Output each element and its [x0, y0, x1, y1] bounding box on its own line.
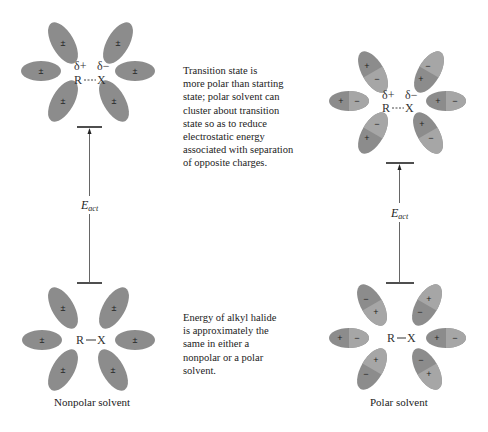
svg-text:−: −: [425, 61, 430, 71]
svg-text:±: ±: [133, 335, 138, 345]
x-label: X: [97, 333, 106, 347]
svg-text:±: ±: [111, 365, 116, 375]
svg-text:±: ±: [40, 335, 45, 345]
note-line: electrostatic energy: [183, 130, 333, 143]
svg-text:+: +: [426, 294, 431, 304]
svg-text:−: −: [354, 333, 359, 343]
svg-text:−: −: [417, 307, 422, 317]
x-label: X: [405, 101, 414, 115]
svg-text:−: −: [354, 96, 359, 106]
e-act-label: Eact: [80, 198, 99, 213]
note-line: is approximately the: [183, 324, 333, 337]
r-label: R: [76, 333, 84, 347]
polar-energy-gap: Eact: [386, 163, 414, 283]
r-label: R: [387, 331, 395, 345]
svg-text:+: +: [338, 96, 343, 106]
note-line: of opposite charges.: [183, 156, 333, 169]
note-line: state so as to reduce: [183, 117, 333, 130]
note-line: Transition state is: [183, 64, 333, 77]
svg-text:−: −: [418, 355, 423, 365]
e-act-label: Eact: [390, 206, 409, 221]
delta-minus-label: δ−: [405, 88, 418, 102]
delta-plus-label: δ+: [382, 88, 395, 102]
svg-text:±: ±: [61, 38, 66, 48]
svg-text:±: ±: [61, 96, 66, 106]
svg-text:±: ±: [61, 303, 66, 313]
svg-text:±: ±: [116, 38, 121, 48]
transition-state-note: Transition state is more polar than star…: [183, 64, 333, 170]
svg-text:+: +: [364, 133, 369, 143]
svg-text:−: −: [363, 294, 368, 304]
arrow-head-icon: [398, 164, 402, 170]
x-label: X: [407, 331, 416, 345]
svg-text:+: +: [426, 369, 431, 379]
svg-text:−: −: [363, 369, 368, 379]
note-line: Energy of alkyl halide: [183, 311, 333, 324]
r-label: R: [382, 101, 390, 115]
nonpolar-transition-state-cluster: ± ± ± ± ± ± δ+ δ− R X: [21, 18, 155, 127]
note-line: more polar than starting: [183, 77, 333, 90]
svg-text:+: +: [418, 74, 423, 84]
svg-text:+: +: [373, 307, 378, 317]
svg-text:+: +: [434, 333, 439, 343]
nonpolar-energy-gap: Eact: [77, 127, 102, 283]
svg-text:−: −: [374, 74, 379, 84]
svg-text:±: ±: [39, 66, 44, 76]
svg-text:±: ±: [112, 303, 117, 313]
delta-minus-label: δ−: [97, 59, 110, 73]
svg-text:+: +: [373, 355, 378, 365]
polar-caption: Polar solvent: [370, 396, 428, 408]
nonpolar-ground-state-cluster: ± ± ± ± ± ± R X: [22, 283, 155, 396]
r-label: R: [74, 73, 82, 87]
note-line: same in either a: [183, 337, 333, 350]
svg-text:−: −: [428, 133, 433, 143]
svg-text:−: −: [374, 119, 379, 129]
svg-text:+: +: [419, 119, 424, 129]
nonpolar-caption: Nonpolar solvent: [54, 396, 130, 408]
ground-state-note: Energy of alkyl halide is approximately …: [183, 311, 333, 377]
delta-plus-label: δ+: [74, 59, 87, 73]
note-line: cluster about transition: [183, 104, 333, 117]
polar-transition-state-cluster: +− −+ +− +− −+ +− δ+ δ− R X: [329, 47, 466, 159]
note-line: nonpolar or a polar: [183, 351, 333, 364]
note-line: solvent.: [183, 364, 333, 377]
polar-ground-state-cluster: −+ +− +− +− +− −+ R X: [329, 280, 466, 395]
svg-text:+: +: [364, 61, 369, 71]
svg-text:±: ±: [133, 66, 138, 76]
arrow-head-icon: [88, 128, 92, 134]
svg-text:−: −: [452, 333, 457, 343]
svg-text:+: +: [435, 96, 440, 106]
svg-text:+: +: [337, 333, 342, 343]
note-line: state; polar solvent can: [183, 90, 333, 103]
svg-text:−: −: [452, 96, 457, 106]
x-label: X: [97, 73, 106, 87]
svg-text:±: ±: [61, 365, 66, 375]
note-line: associated with separation: [183, 143, 333, 156]
svg-text:±: ±: [112, 96, 117, 106]
